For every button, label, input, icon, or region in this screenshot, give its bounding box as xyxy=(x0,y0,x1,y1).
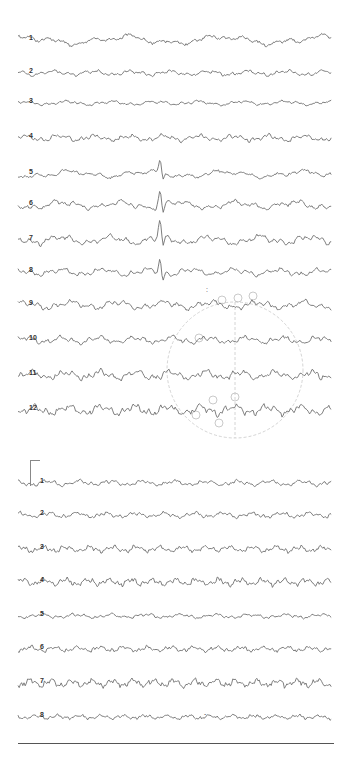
lower-channel-6-label: 6 xyxy=(40,643,44,650)
upper-channel-9-trace xyxy=(18,299,331,311)
upper-channel-11-label: 11 xyxy=(29,369,36,376)
upper-channel-4-label: 4 xyxy=(29,132,33,139)
upper-channel-8-trace xyxy=(18,259,331,280)
annotation-mark-upper: : xyxy=(206,286,208,293)
lower-channel-4-trace xyxy=(18,577,331,587)
lower-channel-4-label: 4 xyxy=(40,576,44,583)
upper-channel-7-label: 7 xyxy=(29,234,33,241)
lower-channel-8-trace xyxy=(18,714,331,721)
upper-channel-5-trace xyxy=(18,161,331,180)
upper-channel-9-label: 9 xyxy=(29,299,33,306)
lower-channel-3-label: 3 xyxy=(40,543,44,550)
upper-channel-8-label: 8 xyxy=(29,266,33,273)
eeg-figure: 123456789101112 12345678 : - xyxy=(0,0,348,769)
calibration-marker-vertical xyxy=(30,460,31,486)
upper-channel-7-trace xyxy=(18,221,331,247)
lower-channel-5-trace xyxy=(18,613,331,619)
lower-channel-7-trace xyxy=(18,678,331,689)
upper-channel-2-label: 2 xyxy=(29,67,33,74)
upper-channel-12-label: 12 xyxy=(29,404,37,411)
upper-channel-6-trace xyxy=(18,192,331,213)
upper-channel-6-label: 6 xyxy=(29,199,33,206)
upper-channel-2-trace xyxy=(18,70,331,77)
upper-channel-3-label: 3 xyxy=(29,97,33,104)
lower-channel-8-label: 8 xyxy=(40,711,44,718)
lower-channel-2-label: 2 xyxy=(40,509,44,516)
upper-channel-1-label: 1 xyxy=(29,34,33,41)
upper-channel-5-label: 5 xyxy=(29,168,33,175)
lower-channel-2-trace xyxy=(18,511,331,519)
upper-channel-11-trace xyxy=(18,368,331,381)
upper-channel-1-trace xyxy=(18,33,331,46)
annotation-mark-lower: - xyxy=(204,710,206,717)
upper-channel-10-label: 10 xyxy=(29,334,37,341)
calibration-marker-tick xyxy=(30,460,40,461)
upper-channel-4-trace xyxy=(18,133,331,143)
baseline-rule xyxy=(18,743,334,744)
lower-channel-1-trace xyxy=(18,479,331,487)
lower-channel-5-label: 5 xyxy=(40,610,44,617)
lower-channel-6-trace xyxy=(18,645,331,653)
upper-channel-12-trace xyxy=(18,404,331,418)
eeg-traces xyxy=(0,0,348,769)
lower-channel-7-label: 7 xyxy=(40,677,44,684)
lower-channel-1-label: 1 xyxy=(40,477,44,484)
lower-channel-3-trace xyxy=(18,545,331,554)
upper-channel-10-trace xyxy=(18,335,331,345)
upper-channel-3-trace xyxy=(18,100,331,106)
